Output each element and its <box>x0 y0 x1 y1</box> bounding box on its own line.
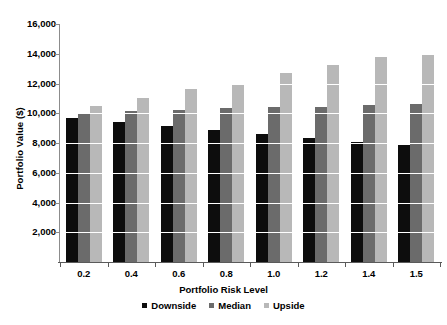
y-axis-tick-mark <box>55 113 59 114</box>
y-axis-tick-label: 16,000 <box>8 19 56 29</box>
bar-median-1.4[interactable] <box>363 105 375 262</box>
chart-legend: DownsideMedianUpside <box>0 300 447 311</box>
legend-item-downside[interactable]: Downside <box>142 300 196 311</box>
x-axis-tick-mark <box>108 263 109 267</box>
y-axis-tick-label: 4,000 <box>8 198 56 208</box>
bar-median-0.2[interactable] <box>78 113 90 262</box>
gridline <box>60 54 440 55</box>
x-axis-tick-mark <box>393 263 394 267</box>
bar-downside-1.0[interactable] <box>256 134 268 262</box>
x-axis-tick-mark <box>250 263 251 267</box>
legend-swatch-icon <box>142 303 147 308</box>
gridline <box>60 173 440 174</box>
y-axis-tick-mark <box>55 232 59 233</box>
legend-item-upside[interactable]: Upside <box>264 300 305 311</box>
x-axis-tick-mark <box>345 263 346 267</box>
x-axis-tick-mark <box>60 263 61 267</box>
bar-downside-1.2[interactable] <box>303 138 315 262</box>
x-axis-tick-mark <box>155 263 156 267</box>
legend-label: Median <box>218 300 251 311</box>
bar-upside-1.0[interactable] <box>280 73 292 262</box>
gridline <box>60 143 440 144</box>
y-axis-tick-mark <box>55 24 59 25</box>
y-axis-tick-mark <box>55 143 59 144</box>
legend-swatch-icon <box>209 303 214 308</box>
x-axis-tick-mark <box>203 263 204 267</box>
y-axis-tick-label: 14,000 <box>8 49 56 59</box>
bar-median-1.0[interactable] <box>268 107 280 262</box>
y-axis-tick-mark <box>55 173 59 174</box>
y-axis-tick-label: 2,000 <box>8 227 56 237</box>
y-axis-tick-label: 12,000 <box>8 79 56 89</box>
y-axis-tick-mark <box>55 203 59 204</box>
x-axis-tick-mark <box>440 263 441 267</box>
legend-item-median[interactable]: Median <box>209 300 251 311</box>
y-axis-tick-mark <box>55 84 59 85</box>
bar-downside-0.6[interactable] <box>161 126 173 262</box>
legend-label: Upside <box>273 300 305 311</box>
gridline <box>60 203 440 204</box>
bar-chart: Portfolio Value ($) 2,0004,0006,0008,000… <box>0 0 447 325</box>
bar-upside-0.4[interactable] <box>137 98 149 262</box>
gridline <box>60 84 440 85</box>
bar-downside-0.8[interactable] <box>208 130 220 262</box>
y-axis-tick-label: 10,000 <box>8 108 56 118</box>
bar-upside-1.5[interactable] <box>422 54 434 262</box>
y-axis-tick-label: 6,000 <box>8 168 56 178</box>
plot-area <box>60 24 440 262</box>
bar-median-0.6[interactable] <box>173 110 185 262</box>
y-axis-tick-label: 8,000 <box>8 138 56 148</box>
y-axis-tick-labels: 2,0004,0006,0008,00010,00012,00014,00016… <box>0 0 56 325</box>
x-axis-tick-label: 1.5 <box>386 268 446 279</box>
legend-label: Downside <box>151 300 196 311</box>
bar-median-1.2[interactable] <box>315 107 327 262</box>
bar-upside-0.2[interactable] <box>90 106 102 262</box>
bar-downside-0.2[interactable] <box>66 118 78 262</box>
bar-upside-0.6[interactable] <box>185 89 197 262</box>
gridline <box>60 113 440 114</box>
bar-median-0.8[interactable] <box>220 108 232 262</box>
x-axis-title: Portfolio Risk Level <box>0 284 447 295</box>
bar-median-0.4[interactable] <box>125 111 137 262</box>
gridline <box>60 232 440 233</box>
legend-swatch-icon <box>264 303 269 308</box>
y-axis-tick-mark <box>55 54 59 55</box>
bar-median-1.5[interactable] <box>410 104 422 262</box>
x-axis-tick-mark <box>298 263 299 267</box>
